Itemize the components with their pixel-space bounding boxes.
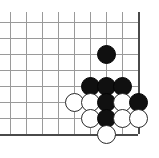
board-edge-line-horizontal: [0, 134, 138, 136]
grid-line-horizontal-3: [0, 70, 138, 71]
grid-line-vertical-0: [10, 12, 11, 134]
black-stone-c6-r2[interactable]: [97, 45, 116, 64]
grid-line-horizontal-2: [0, 54, 138, 55]
grid-line-horizontal-0: [0, 22, 138, 23]
grid-line-vertical-4: [74, 12, 75, 134]
grid-line-horizontal-1: [0, 38, 138, 39]
grid-line-vertical-3: [58, 12, 59, 134]
go-board-diagram: [0, 0, 159, 158]
go-board-surface[interactable]: [0, 0, 159, 158]
grid-line-vertical-1: [26, 12, 27, 134]
grid-line-vertical-2: [42, 12, 43, 134]
white-stone-c6-r7[interactable]: [97, 125, 116, 144]
white-stone-c8-r6[interactable]: [129, 109, 148, 128]
